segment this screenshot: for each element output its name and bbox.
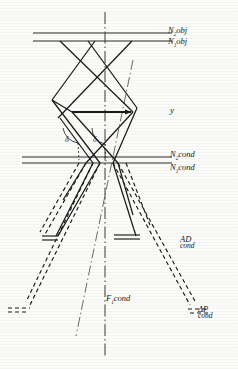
solid-rays-to-steps: [56, 163, 136, 236]
ray-a4: [52, 41, 95, 100]
ray-a3: [88, 41, 137, 108]
label-delta-left: δ: [65, 136, 69, 144]
label-n2-cond: N2cond: [170, 150, 195, 161]
label-ap-cond: ΔP cond: [198, 305, 208, 314]
dray-4: [118, 163, 196, 303]
dray-2: [26, 163, 93, 302]
dray-1: [30, 163, 100, 305]
figure-canvas: N2obj N1obj y N2cond N1cond AD cond ΔP c…: [0, 0, 238, 369]
label-n1-obj: N1obj: [168, 37, 187, 48]
solid-rays-upper: [52, 41, 137, 118]
dray-6: [40, 163, 79, 232]
ray-a2: [58, 41, 132, 118]
angle-arcs: [63, 128, 106, 161]
ray-c3: [113, 163, 136, 236]
ray-c4: [118, 163, 133, 215]
label-delta-right: δ: [93, 136, 97, 144]
label-n1-cond: N1cond: [170, 163, 195, 174]
ray-c2: [56, 163, 93, 236]
solid-rays-lower: [52, 100, 137, 163]
label-ad-cond: AD cond: [180, 235, 191, 244]
dashed-rays: [26, 163, 196, 305]
dray-3: [113, 163, 190, 305]
label-f1-cond: F1cond: [106, 294, 130, 305]
dashed-step-levels: [8, 308, 208, 313]
ray-b5: [52, 100, 100, 163]
label-y: y: [170, 106, 174, 115]
ray-b4: [113, 108, 137, 163]
